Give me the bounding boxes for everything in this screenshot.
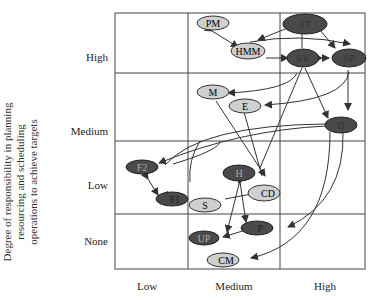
node-CM: CM: [207, 253, 239, 267]
svg-text:PM: PM: [206, 18, 221, 29]
node-F2: F2: [126, 160, 158, 174]
node-H: H: [223, 165, 255, 181]
node-SV: SV: [287, 49, 319, 67]
svg-text:F2: F2: [137, 162, 148, 173]
svg-text:F1: F1: [170, 194, 181, 205]
node-UP: UP: [189, 231, 219, 245]
node-S: S: [189, 198, 221, 212]
node-HMM: HMM: [231, 43, 265, 59]
svg-text:SV: SV: [297, 53, 311, 64]
node-ST: ST: [283, 14, 327, 34]
svg-text:HMM: HMM: [235, 46, 260, 57]
node-PM: PM: [197, 16, 229, 30]
svg-text:ST: ST: [299, 19, 311, 30]
node-SP: SP: [332, 49, 366, 67]
svg-text:CD: CD: [261, 188, 275, 199]
svg-text:S: S: [202, 200, 208, 211]
svg-text:UP: UP: [198, 233, 211, 244]
svg-text:E: E: [242, 101, 248, 112]
svg-text:D: D: [337, 120, 344, 131]
svg-text:M: M: [209, 87, 218, 98]
node-CD: CD: [248, 185, 280, 201]
svg-text:CM: CM: [218, 255, 234, 266]
svg-text:H: H: [235, 168, 242, 179]
node-E: E: [229, 99, 261, 113]
svg-text:P: P: [257, 223, 263, 234]
node-P: P: [241, 221, 273, 235]
node-F1: F1: [156, 192, 188, 206]
svg-text:SP: SP: [343, 53, 355, 64]
node-M: M: [197, 85, 229, 99]
node-D: D: [325, 117, 357, 133]
diagram-canvas: PM HMM ST SV SP M E D F2 F1 H CD S P UP …: [0, 0, 381, 300]
